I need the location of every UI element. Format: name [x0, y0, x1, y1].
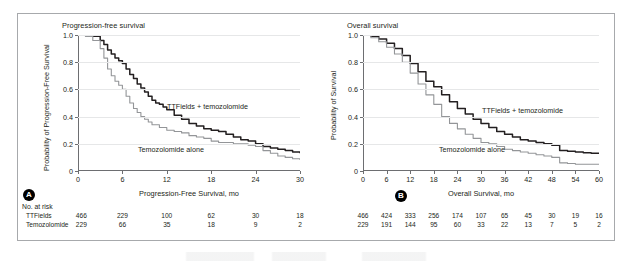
x-tick-label: 18	[430, 175, 438, 184]
risk-table-row: 2291911449560332213752	[320, 221, 612, 230]
risk-value: 95	[430, 221, 437, 228]
gridline	[78, 62, 300, 63]
x-tick-mark	[167, 171, 168, 174]
y-tick-mark	[75, 89, 78, 90]
risk-value: 466	[76, 212, 87, 219]
figure-frame: Progression-free survival Probability of…	[17, 13, 615, 241]
x-tick-mark	[575, 171, 576, 174]
risk-value: 45	[525, 212, 532, 219]
gridline	[363, 117, 599, 118]
risk-value: 35	[163, 221, 170, 228]
y-tick-label: 0.2	[348, 139, 358, 148]
gridline	[363, 35, 599, 36]
y-tick-mark	[360, 144, 363, 145]
y-tick-mark	[75, 144, 78, 145]
y-tick-mark	[360, 89, 363, 90]
risk-value: 62	[208, 212, 215, 219]
risk-value: 9	[254, 221, 258, 228]
panel-a-label-ttfields: TTFields + temozolomide	[167, 102, 248, 111]
x-tick-mark	[256, 171, 257, 174]
x-tick-label: 12	[163, 175, 171, 184]
x-tick-mark	[122, 171, 123, 174]
risk-value: 256	[428, 212, 439, 219]
y-tick-label: 0	[354, 167, 358, 176]
y-tick-label: 0.4	[63, 112, 73, 121]
risk-value: 19	[572, 212, 579, 219]
y-tick-mark	[360, 117, 363, 118]
risk-value: 466	[357, 212, 368, 219]
x-tick-mark	[363, 171, 364, 174]
panel-a-badge: A	[23, 189, 35, 201]
panel-a-risk-title: No. at risk	[22, 203, 53, 210]
y-tick-mark	[75, 117, 78, 118]
x-tick-label: 6	[120, 175, 124, 184]
x-tick-mark	[410, 171, 411, 174]
y-tick-label: 0.6	[63, 85, 73, 94]
x-tick-mark	[387, 171, 388, 174]
risk-value: 229	[76, 221, 87, 228]
x-tick-label: 0	[361, 175, 365, 184]
x-tick-mark	[434, 171, 435, 174]
x-tick-label: 36	[501, 175, 509, 184]
x-tick-label: 30	[477, 175, 485, 184]
x-tick-label: 0	[76, 175, 80, 184]
gridline	[78, 117, 300, 118]
panel-a-label-temozolomide: Temozolomide alone	[138, 145, 204, 154]
y-tick-label: 1.0	[63, 31, 73, 40]
risk-value: 18	[296, 212, 303, 219]
x-tick-mark	[211, 171, 212, 174]
y-tick-mark	[75, 35, 78, 36]
risk-value: 229	[117, 212, 128, 219]
y-tick-label: 0.8	[348, 58, 358, 67]
x-tick-mark	[505, 171, 506, 174]
risk-value: 22	[501, 221, 508, 228]
panel-progression-free-survival: Progression-free survival Probability of…	[18, 14, 317, 240]
risk-value: 174	[452, 212, 463, 219]
panel-b-y-axis-label: Probability of Survival	[329, 71, 338, 140]
y-tick-label: 0.6	[348, 85, 358, 94]
x-tick-mark	[552, 171, 553, 174]
x-tick-mark	[599, 171, 600, 174]
x-tick-mark	[300, 171, 301, 174]
risk-value: 60	[454, 221, 461, 228]
panel-a-y-axis-label: Probability of Progression-Free Survival	[42, 44, 51, 171]
figure-caption-cutoff	[175, 252, 465, 261]
risk-value: 33	[477, 221, 484, 228]
x-tick-label: 60	[595, 175, 603, 184]
risk-value: 18	[208, 221, 215, 228]
figure-container: Progression-free survival Probability of…	[0, 0, 632, 264]
x-tick-mark	[78, 171, 79, 174]
risk-value: 100	[161, 212, 172, 219]
gridline	[78, 89, 300, 90]
x-tick-label: 48	[548, 175, 556, 184]
x-tick-label: 18	[207, 175, 215, 184]
y-tick-label: 0	[69, 167, 73, 176]
x-tick-label: 42	[524, 175, 532, 184]
y-tick-label: 1.0	[348, 31, 358, 40]
y-tick-label: 0.4	[348, 112, 358, 121]
risk-value: 5	[574, 221, 578, 228]
gridline	[78, 35, 300, 36]
x-tick-mark	[457, 171, 458, 174]
risk-table-row: Temozolomide22966351892	[22, 221, 314, 230]
gridline	[363, 89, 599, 90]
panel-b-label-ttfields: TTFields + temozolomide	[482, 106, 563, 115]
risk-value: 333	[405, 212, 416, 219]
x-tick-label: 54	[571, 175, 579, 184]
x-tick-label: 30	[296, 175, 304, 184]
survival-curve	[363, 35, 599, 153]
risk-value: 229	[357, 221, 368, 228]
risk-value: 13	[525, 221, 532, 228]
gridline	[363, 62, 599, 63]
risk-value: 2	[597, 221, 601, 228]
risk-row-label: TTFields	[26, 212, 52, 219]
risk-value: 66	[119, 221, 126, 228]
panel-b-y-axis	[363, 35, 364, 171]
x-tick-mark	[528, 171, 529, 174]
panel-a-y-axis	[78, 35, 79, 171]
y-tick-mark	[360, 62, 363, 63]
y-tick-mark	[75, 62, 78, 63]
panel-a-title: Progression-free survival	[62, 21, 145, 30]
x-tick-label: 6	[385, 175, 389, 184]
panel-overall-survival: Overall survival Probability of Survival…	[317, 14, 616, 240]
